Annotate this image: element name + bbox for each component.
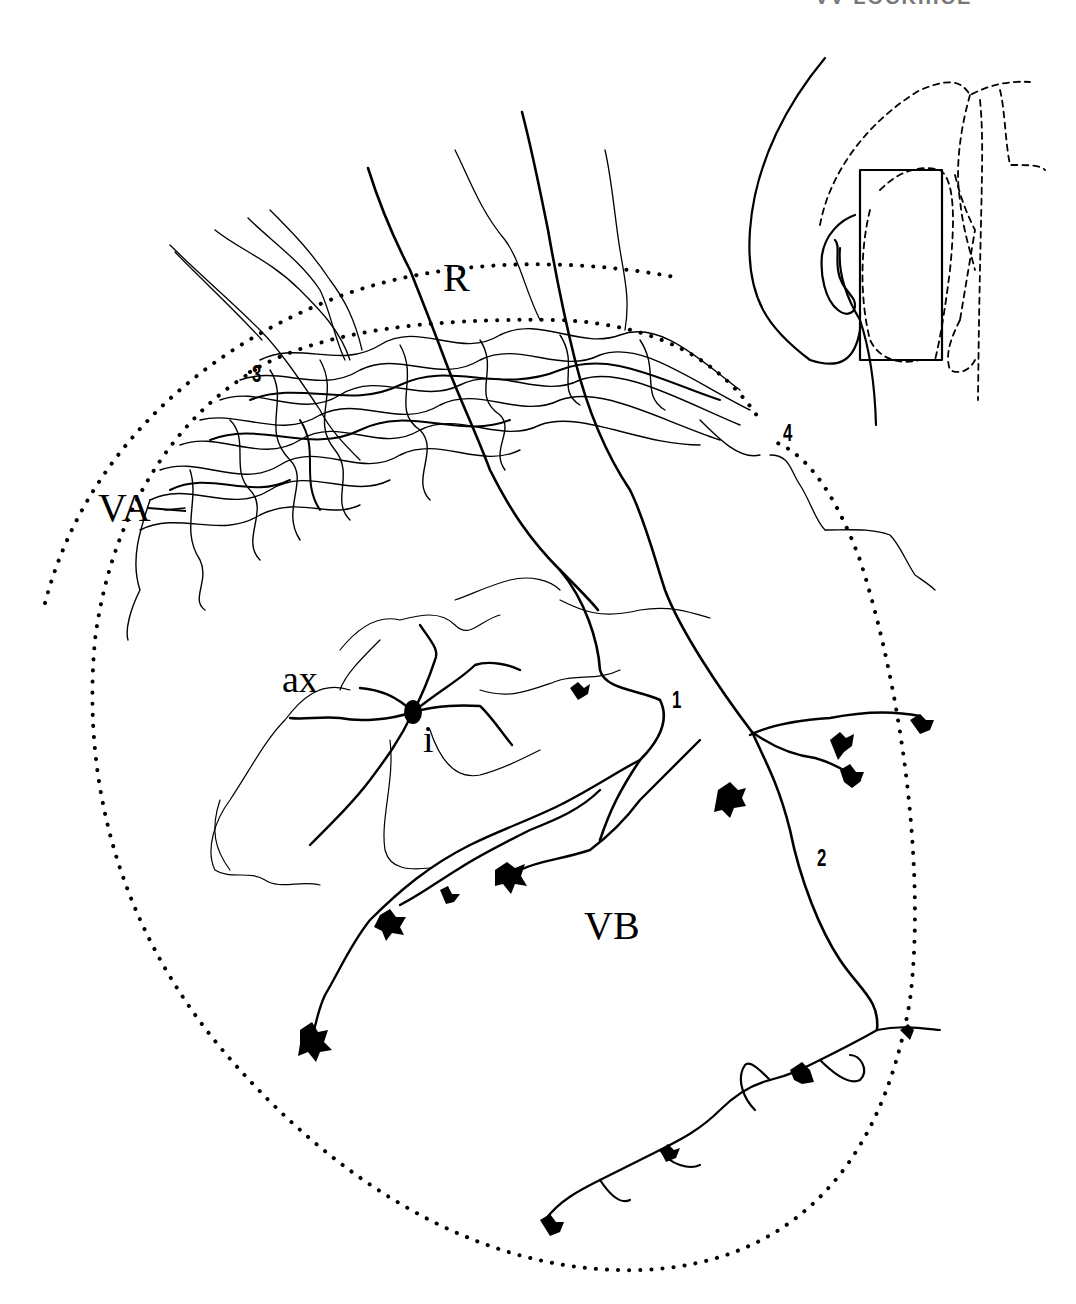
label-ax: ax xyxy=(282,660,318,698)
label-va: VA xyxy=(98,488,151,528)
boundary-lines xyxy=(45,264,915,1270)
interneuron-dendrites xyxy=(290,625,520,845)
neuron-tracing-figure: VV LOCKIIICE R VA VB ax i 1 2 3 4 xyxy=(0,0,1076,1304)
label-i: i xyxy=(423,720,434,758)
axon-2-terminal-branch xyxy=(545,1027,940,1220)
axon-label-3: 3 xyxy=(252,362,261,386)
axon-label-2: 2 xyxy=(817,846,826,870)
drawing-canvas xyxy=(0,0,1076,1304)
va-pointer-line xyxy=(148,505,188,515)
inset-cortex-outline xyxy=(749,58,860,364)
orientation-inset xyxy=(749,58,1045,425)
axon-1-terminal-branch xyxy=(312,712,920,1040)
label-vb: VB xyxy=(584,906,640,946)
axon-4-branch xyxy=(770,455,935,590)
axon-label-1: 1 xyxy=(672,688,681,712)
label-r: R xyxy=(443,258,470,298)
axon-label-4: 4 xyxy=(783,421,792,445)
page-header-fragment: VV LOCKIIICE xyxy=(815,0,972,9)
interneuron-soma xyxy=(404,700,422,724)
inset-rectangle xyxy=(860,170,942,360)
r-outer-boundary xyxy=(45,264,680,603)
interneuron-axon xyxy=(211,578,710,885)
axon-1 xyxy=(368,168,664,840)
